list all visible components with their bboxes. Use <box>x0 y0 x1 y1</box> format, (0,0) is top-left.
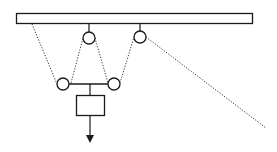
pulley-upper-right <box>134 31 146 43</box>
pulley-diagram <box>0 0 277 152</box>
pulley-lower-left <box>57 78 69 90</box>
pulley-lower-right <box>108 78 120 90</box>
pulley-upper-left <box>83 32 95 44</box>
ceiling-beam <box>17 14 253 24</box>
force-arrow-icon <box>86 135 94 143</box>
rope <box>32 24 266 128</box>
load-box <box>77 96 105 116</box>
